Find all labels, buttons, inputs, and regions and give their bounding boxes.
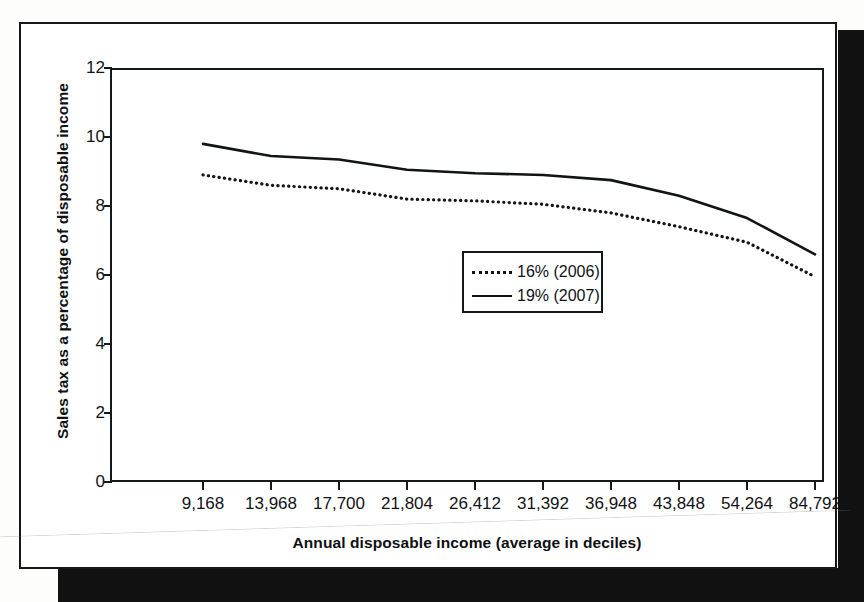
x-tickmark [406,482,408,490]
y-axis-title: Sales tax as a percentage of disposable … [54,51,72,471]
figure-frame: 121086420 9,16813,96817,70021,80426,4123… [19,22,837,569]
legend-solid-line-icon [472,290,512,302]
page-shadow-right [838,30,864,602]
page-shadow-bottom [58,568,864,602]
legend-dotted-line-icon [472,266,512,278]
y-tick-label: 2 [69,403,105,423]
scanned-figure-page: 121086420 9,16813,96817,70021,80426,4123… [0,0,864,602]
x-tickmark [270,482,272,490]
line-chart: 121086420 9,16813,96817,70021,80426,4123… [21,24,839,571]
x-tickmark [202,482,204,490]
legend-label-2007: 19% (2007) [517,287,600,305]
x-tickmark [542,482,544,490]
y-tick-label: 0 [69,472,105,492]
legend-item-2006: 16% (2006) [472,260,593,284]
x-tickmark [610,482,612,490]
x-tickmark [746,482,748,490]
x-tick-label: 84,792 [770,494,860,514]
x-tickmark [814,482,816,490]
x-axis-title: Annual disposable income (average in dec… [110,534,824,552]
legend-label-2006: 16% (2006) [517,263,600,281]
legend-item-2007: 19% (2007) [472,284,593,308]
x-tickmark [474,482,476,490]
y-tick-label: 10 [69,127,105,147]
x-tickmark [678,482,680,490]
y-tick-label: 8 [69,196,105,216]
chart-legend: 16% (2006) 19% (2007) [462,251,603,313]
x-tickmark [338,482,340,490]
y-tick-label: 4 [69,334,105,354]
y-tick-label: 6 [69,265,105,285]
y-tick-label: 12 [69,58,105,78]
